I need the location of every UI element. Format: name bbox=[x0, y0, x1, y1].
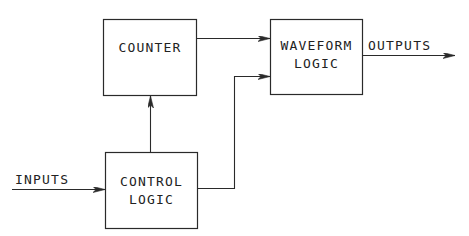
waveform-logic-label-line1: WAVEFORM bbox=[280, 38, 352, 53]
counter-block: COUNTER bbox=[104, 20, 197, 96]
inputs-connection: INPUTS bbox=[12, 172, 105, 190]
control-logic-block: CONTROL LOGIC bbox=[106, 153, 198, 229]
control-logic-box bbox=[106, 153, 198, 229]
block-diagram: COUNTER WAVEFORM LOGIC CONTROL LOGIC INP… bbox=[0, 0, 469, 236]
outputs-connection: OUTPUTS bbox=[363, 38, 456, 56]
control-logic-label-line2: LOGIC bbox=[129, 192, 174, 207]
control-to-waveform-arrow bbox=[198, 77, 271, 189]
inputs-label: INPUTS bbox=[15, 172, 69, 187]
control-logic-label-line1: CONTROL bbox=[120, 174, 183, 189]
waveform-logic-block: WAVEFORM LOGIC bbox=[271, 20, 363, 95]
counter-label: COUNTER bbox=[118, 40, 181, 55]
outputs-label: OUTPUTS bbox=[368, 38, 431, 53]
waveform-logic-label-line2: LOGIC bbox=[294, 56, 339, 71]
counter-box bbox=[104, 20, 197, 96]
